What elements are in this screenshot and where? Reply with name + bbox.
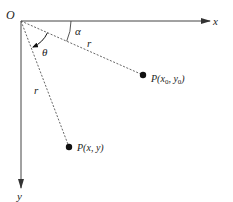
radius-line-to-p (21, 21, 69, 147)
point-p-marker (66, 144, 72, 150)
radius-label-lower: r (34, 84, 39, 96)
coordinate-rotation-diagram: O x y α θ r r P(x0, y0) P(x, y) (0, 0, 233, 202)
theta-label: θ (42, 46, 48, 58)
x-axis-label: x (212, 15, 218, 27)
radius-line-to-p0 (21, 21, 143, 75)
point-p0-marker (140, 72, 146, 78)
alpha-label: α (75, 25, 81, 37)
point-p0-label: P(x0, y0) (150, 73, 185, 86)
point-p-label: P(x, y) (76, 142, 104, 154)
y-axis-label: y (16, 190, 22, 202)
theta-arc (33, 33, 48, 47)
p0-prefix: P( (150, 73, 161, 85)
origin-label: O (6, 8, 15, 22)
p0-suffix: ) (180, 73, 185, 85)
radius-label-upper: r (87, 37, 92, 49)
alpha-arc (67, 21, 71, 41)
